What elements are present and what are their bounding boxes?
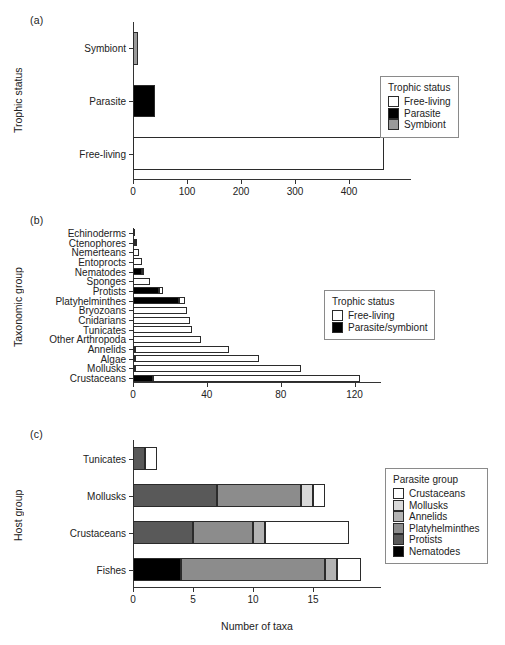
panel-c-bar-segment: [145, 447, 157, 469]
panel-b-bar-segment: [135, 355, 259, 362]
panel-c-y-tick-label: Tunicates: [83, 453, 126, 464]
panel-b-bar-segment: [142, 268, 144, 275]
panel-c-x-tick-label: 15: [307, 594, 318, 605]
panel-b-bar-segment: [133, 287, 159, 294]
panel-c-bar-segment: [253, 521, 265, 543]
panel-b-x-tick: [207, 383, 208, 387]
panel-a-x-tick-label: 100: [179, 186, 196, 197]
panel-b-bar: [133, 297, 185, 304]
panel-b-legend-label: Parasite/symbiont: [348, 322, 427, 333]
panel-b-bar: [133, 239, 137, 246]
panel-c-bar-segment: [133, 521, 193, 543]
panel-a-legend-label: Parasite: [404, 108, 441, 119]
panel-b-x-tick-label: 40: [201, 389, 212, 400]
panel-c-legend-item: Protists: [393, 534, 480, 546]
panel-c-x-tick-label: 10: [247, 594, 258, 605]
panel-b-legend-swatch: [332, 310, 343, 321]
panel-a-x-tick: [349, 180, 350, 184]
panel-c-bar-segment: [301, 484, 313, 506]
panel-a-letter: (a): [30, 14, 43, 26]
panel-a-y-tick-label: Parasite: [89, 96, 126, 107]
panel-c-bar-segment: [193, 521, 253, 543]
panel-b-bar: [133, 249, 139, 256]
panel-c-legend-item: Crustaceans: [393, 488, 480, 500]
panel-c-legend-item: Nematodes: [393, 546, 480, 558]
panel-b-bar-segment: [133, 258, 142, 265]
panel-c-bar-segment: [133, 447, 145, 469]
panel-c-x-axis: [133, 587, 381, 588]
panel-c-x-axis-title: Number of taxa: [133, 620, 381, 632]
panel-a-plot-area: 0100200300400SymbiontParasiteFree-living: [133, 22, 403, 180]
panel-a-x-tick: [133, 180, 134, 184]
panel-c-bar-segment: [325, 558, 337, 580]
panel-b-letter: (b): [30, 214, 43, 226]
panel-c-legend-label: Mollusks: [409, 500, 448, 511]
panel-a-x-tick: [187, 180, 188, 184]
panel-a-x-tick-label: 300: [287, 186, 304, 197]
panel-c-y-axis-title: Host group: [12, 460, 24, 570]
panel-a-legend-label: Symbiont: [404, 119, 446, 130]
panel-b: (b) Taxonomic group 04080120EchinodermsC…: [0, 212, 505, 420]
panel-a-x-tick-label: 0: [130, 186, 136, 197]
panel-c-bar-segment: [337, 558, 361, 580]
panel-c-legend-label: Platyhelminthes: [409, 523, 480, 534]
panel-b-bar: [133, 326, 192, 333]
panel-b-x-tick-label: 120: [346, 389, 363, 400]
panel-c-bar: [133, 447, 157, 469]
panel-b-y-axis-title: Taxonomic group: [12, 240, 24, 375]
panel-b-bar: [133, 229, 135, 236]
panel-b-bar-segment: [135, 365, 301, 372]
panel-c-legend-item: Mollusks: [393, 500, 480, 512]
panel-c-x-tick-label: 5: [190, 594, 196, 605]
panel-b-bar: [133, 307, 187, 314]
panel-b-bar-segment: [133, 307, 187, 314]
panel-b-legend-item: Free-living: [332, 310, 427, 322]
panel-c-legend-label: Nematodes: [409, 546, 460, 557]
panel-b-legend-swatch: [332, 322, 343, 333]
panel-b-bar: [133, 268, 144, 275]
panel-b-legend-item: Parasite/symbiont: [332, 322, 427, 334]
panel-b-x-axis: [133, 382, 381, 383]
panel-b-bar-segment: [133, 249, 139, 256]
panel-a-x-tick-label: 200: [233, 186, 250, 197]
panel-c-legend-swatch: [393, 511, 404, 522]
panel-b-bar-segment: [135, 239, 137, 246]
panel-c-x-tick: [193, 588, 194, 592]
panel-b-bar-segment: [133, 278, 150, 285]
panel-c-bar-segment: [313, 484, 325, 506]
panel-c-y-tick-label: Fishes: [97, 564, 126, 575]
panel-b-bar: [133, 287, 163, 294]
panel-c-legend-label: Crustaceans: [409, 488, 465, 499]
panel-b-bar-segment: [153, 375, 360, 382]
panel-c-legend-items: CrustaceansMollusksAnnelidsPlatyhelminth…: [393, 488, 480, 557]
panel-c-legend-title: Parasite group: [393, 474, 480, 485]
panel-a-legend-swatch: [388, 119, 399, 130]
panel-c-x-tick: [253, 588, 254, 592]
panel-c-letter: (c): [30, 428, 43, 440]
panel-b-bar: [133, 365, 301, 372]
panel-a-legend-label: Free-living: [404, 96, 451, 107]
panel-c-legend-item: Platyhelminthes: [393, 523, 480, 535]
panel-c-bar-segment: [133, 558, 181, 580]
panel-c-legend-label: Annelids: [409, 511, 447, 522]
panel-c-legend-swatch: [393, 534, 404, 545]
panel-a-x-axis: [133, 179, 411, 180]
panel-a-legend-title: Trophic status: [388, 82, 451, 93]
panel-a-legend-swatch: [388, 108, 399, 119]
panel-a-legend-items: Free-livingParasiteSymbiont: [388, 96, 451, 131]
panel-a-x-tick-label: 400: [341, 186, 358, 197]
panel-a-legend: Trophic status Free-livingParasiteSymbio…: [380, 76, 459, 138]
panel-c-legend-swatch: [393, 488, 404, 499]
panel-c-legend-item: Annelids: [393, 511, 480, 523]
panel-b-bar-segment: [133, 268, 142, 275]
panel-b-x-tick-label: 80: [275, 389, 286, 400]
panel-a-legend-item: Free-living: [388, 96, 451, 108]
panel-a-bar: [133, 32, 138, 65]
panel-a-bar: [133, 137, 384, 170]
panel-c-bar-segment: [133, 484, 217, 506]
panel-a-bar: [133, 85, 155, 118]
panel-a-y-tick-label: Free-living: [79, 148, 126, 159]
panel-c-bar: [133, 558, 361, 580]
panel-c-bar-segment: [265, 521, 349, 543]
panel-a-legend-swatch: [388, 96, 399, 107]
